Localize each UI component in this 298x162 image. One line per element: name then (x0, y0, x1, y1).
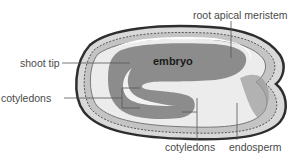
seed-diagram (0, 0, 298, 162)
label-embryo: embryo (153, 55, 193, 67)
label-cotyledons-bottom: cotyledons (165, 141, 215, 153)
label-root-apical-meristem: root apical meristem (193, 9, 288, 21)
label-cotyledons-left: cotyledons (1, 92, 51, 104)
label-shoot-tip: shoot tip (20, 57, 60, 69)
label-endosperm: endosperm (229, 141, 282, 153)
